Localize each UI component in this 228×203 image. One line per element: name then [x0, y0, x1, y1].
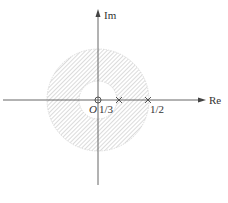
- pole-zero-diagram: Im Re O 1/3 1/2: [0, 0, 228, 203]
- pole-label-1-2: 1/2: [150, 104, 164, 115]
- origin-label: O: [89, 104, 97, 115]
- imag-axis-label: Im: [104, 10, 116, 21]
- pole-label-1-3: 1/3: [99, 104, 113, 115]
- diagram-canvas: [0, 0, 228, 203]
- roc-annulus: [0, 0, 228, 203]
- real-axis-label: Re: [209, 95, 221, 106]
